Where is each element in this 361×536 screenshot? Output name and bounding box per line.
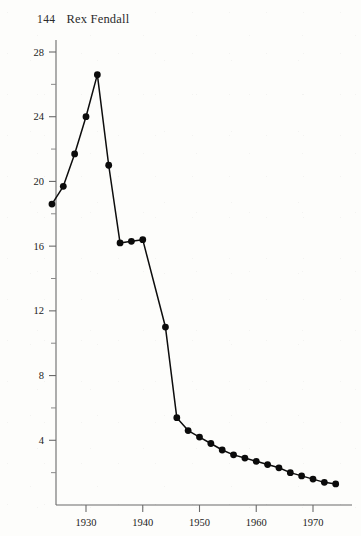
data-point-marker [332,481,339,488]
data-point-marker [219,447,226,454]
data-point-marker [105,162,112,169]
y-axis-tick-label: 20 [34,176,45,187]
data-point-marker [128,238,135,245]
x-axis-tick-label: 1950 [189,517,210,528]
data-point-marker [117,240,124,247]
data-point-marker [207,440,214,447]
y-axis-tick-label: 16 [34,241,45,252]
chart-canvas: 481216202428 19301940195019601970 [0,0,361,536]
x-axis: 19301940195019601970 [56,505,352,528]
line-chart: 481216202428 19301940195019601970 [0,0,361,536]
data-point-marker [49,201,56,208]
data-point-marker [276,464,283,471]
data-point-marker [173,414,180,421]
data-point-marker [298,472,305,479]
x-axis-tick-label: 1940 [132,517,153,528]
data-point-marker [83,113,90,120]
data-point-marker [310,476,317,483]
data-point-marker [321,479,328,486]
data-point-marker [185,427,192,434]
data-point-marker [60,183,67,190]
y-axis-tick-label: 24 [34,111,45,122]
y-axis: 481216202428 [34,40,57,505]
y-axis-tick-label: 12 [34,305,45,316]
data-point-marker [287,469,294,476]
x-axis-tick-label: 1970 [303,517,324,528]
data-point-marker [242,455,249,462]
data-point-marker [264,461,271,468]
data-point-marker [71,151,78,158]
x-axis-tick-label: 1960 [246,517,267,528]
data-point-marker [196,434,203,441]
data-point-marker [139,236,146,243]
y-axis-tick-label: 8 [39,370,44,381]
data-point-marker [253,458,260,465]
data-point-marker [94,71,101,78]
data-point-marker [230,451,237,458]
data-series [49,71,340,487]
y-axis-tick-label: 28 [34,47,45,58]
book-page: 144 Rex Fendall 481216202428 19301940195… [0,0,361,536]
data-point-marker [162,324,169,331]
y-axis-tick-label: 4 [39,435,45,446]
series-line [52,75,336,484]
x-axis-tick-label: 1930 [76,517,97,528]
